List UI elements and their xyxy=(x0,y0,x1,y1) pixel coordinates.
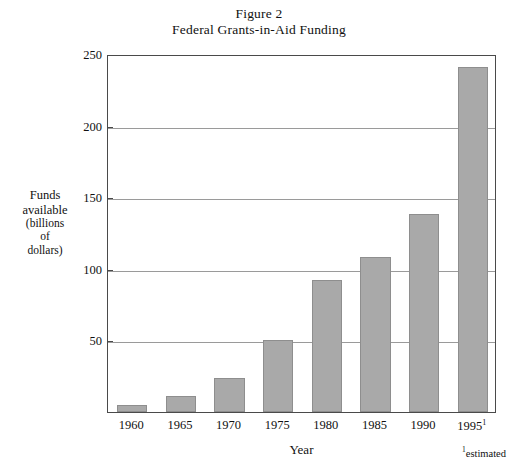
chart-plot-area xyxy=(107,55,496,413)
bar-1980[interactable] xyxy=(312,280,342,412)
x-tick-label-text: 1995 xyxy=(457,419,482,433)
x-tick-footnote-marker: 1 xyxy=(482,418,486,427)
footnote-text: estimated xyxy=(466,448,506,459)
y-tick-label-200: 200 xyxy=(56,119,102,134)
bar-1975[interactable] xyxy=(263,340,293,412)
bar-1985[interactable] xyxy=(360,257,390,412)
y-tick-mark-200 xyxy=(107,127,113,128)
bar-1995[interactable] xyxy=(458,67,488,412)
footnote-estimated: 1estimated xyxy=(462,445,506,459)
y-axis-tick-labels: 50100150200250 xyxy=(52,55,102,413)
y-tick-label-100: 100 xyxy=(56,262,102,277)
x-tick-label-1990: 1990 xyxy=(411,418,436,433)
x-tick-label-1965: 1965 xyxy=(167,418,192,433)
y-tick-label-250: 250 xyxy=(56,48,102,63)
y-tick-mark-50 xyxy=(107,341,113,342)
x-axis-title: Year xyxy=(107,442,496,458)
y-tick-mark-150 xyxy=(107,198,113,199)
x-tick-label-1970: 1970 xyxy=(216,418,241,433)
figure-caption: Federal Grants-in-Aid Funding xyxy=(0,22,518,38)
y-tick-label-150: 150 xyxy=(56,191,102,206)
bar-1960[interactable] xyxy=(117,405,147,412)
bar-1990[interactable] xyxy=(409,214,439,412)
figure-title-block: Figure 2 Federal Grants-in-Aid Funding xyxy=(0,6,518,38)
y-tick-label-50: 50 xyxy=(56,334,102,349)
bars-layer xyxy=(108,56,495,412)
x-tick-label-1975: 1975 xyxy=(265,418,290,433)
x-tick-label-1985: 1985 xyxy=(362,418,387,433)
bar-1970[interactable] xyxy=(214,378,244,412)
y-tick-mark-100 xyxy=(107,270,113,271)
x-tick-label-1960: 1960 xyxy=(119,418,144,433)
figure-number: Figure 2 xyxy=(0,6,518,22)
x-tick-label-1995: 19951 xyxy=(457,418,486,434)
x-axis-tick-labels: 196019651970197519801985199019951 xyxy=(107,418,496,438)
x-tick-label-1980: 1980 xyxy=(313,418,338,433)
bar-1965[interactable] xyxy=(166,396,196,412)
